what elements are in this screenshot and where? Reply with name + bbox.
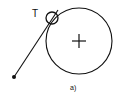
figure-caption: a) [70,84,76,92]
diagram-canvas: T a) [0,0,124,97]
center-cross-icon [72,34,86,48]
tangent-line [14,10,58,77]
end-point-dot [12,75,16,79]
point-label-t: T [32,8,38,19]
